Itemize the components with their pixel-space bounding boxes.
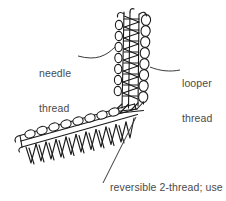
label-looper-thread-line2: thread: [182, 113, 212, 125]
looper-loops-right: [138, 14, 151, 102]
needle-loops-left: [114, 20, 123, 96]
label-caption: reversible 2-thread; use same thread thr…: [110, 159, 224, 201]
label-caption-line1: reversible 2-thread; use: [110, 182, 224, 194]
stitch-diagram-figure: needle thread looper thread reversible 2…: [0, 0, 226, 201]
leader-line-looper: [150, 67, 180, 71]
label-looper-thread-line1: looper: [182, 78, 212, 90]
label-needle-thread: needle thread: [39, 45, 71, 137]
label-needle-thread-line2: thread: [39, 103, 71, 115]
thread-tails-top: [117, 9, 146, 17]
label-looper-thread: looper thread: [182, 55, 212, 147]
leader-line-needle: [78, 47, 115, 58]
label-needle-thread-line1: needle: [39, 68, 71, 80]
